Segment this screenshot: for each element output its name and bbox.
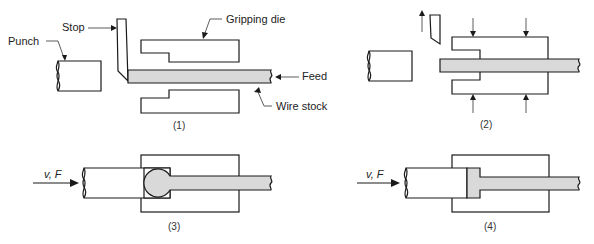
punch xyxy=(367,51,412,81)
panel-2: (2) xyxy=(367,10,580,130)
panel-3-caption: (3) xyxy=(168,221,180,232)
gripping-die-label: Gripping die xyxy=(226,13,285,25)
up-arrow-icon xyxy=(419,10,425,32)
velocity-force-label: v, F xyxy=(366,168,385,180)
panel-4-caption: (4) xyxy=(484,221,496,232)
forging-diagram: Punch Stop Gripping die Feed Wire stock … xyxy=(0,0,594,244)
upper-gripping-die xyxy=(141,40,239,62)
stop-label: Stop xyxy=(62,21,85,33)
velocity-force-label: v, F xyxy=(44,168,63,180)
wire-stock xyxy=(128,70,272,83)
punch-label: Punch xyxy=(8,35,39,47)
force-arrow-icon xyxy=(357,179,400,187)
punch xyxy=(56,61,101,91)
panel-4: v, F (4) xyxy=(357,155,580,232)
panel-1: Punch Stop Gripping die Feed Wire stock … xyxy=(8,13,328,131)
force-arrow-icon xyxy=(33,179,79,187)
lower-gripping-die xyxy=(141,90,239,113)
panel-2-caption: (2) xyxy=(480,119,492,130)
stop xyxy=(117,19,128,81)
wire-stock-label: Wire stock xyxy=(276,100,328,112)
feed-label: Feed xyxy=(302,70,327,82)
panel-3: v, F (3) xyxy=(33,155,272,232)
panel-1-caption: (1) xyxy=(173,120,185,131)
stop-retracted xyxy=(430,15,440,44)
wire-stock xyxy=(440,59,580,72)
punch xyxy=(404,168,467,198)
